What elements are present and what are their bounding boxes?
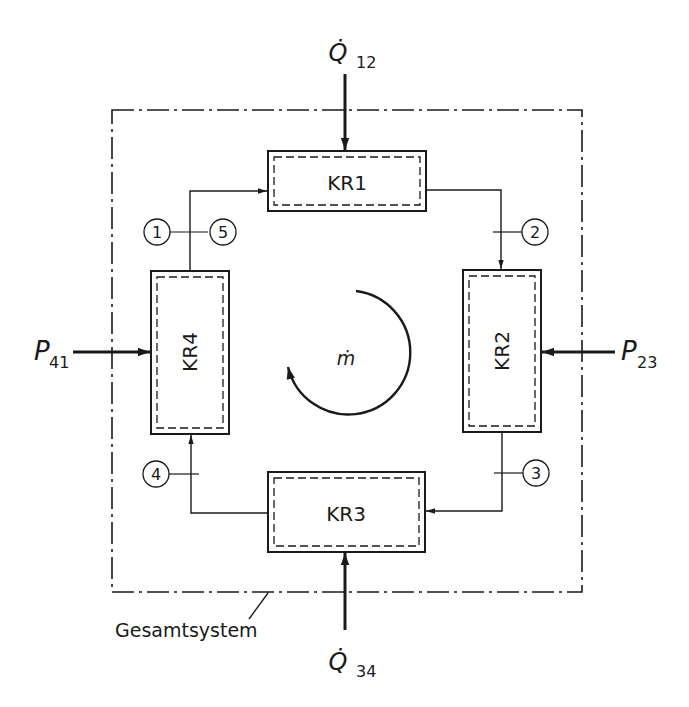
state-point-5: 5 [210, 219, 236, 245]
q12-label: Q̇ 12 [329, 39, 377, 72]
kr3-label: KR3 [326, 502, 366, 526]
p41-label: P 41 [34, 336, 69, 372]
flow-kr1-to-kr2 [426, 190, 501, 269]
svg-text:P: P [34, 336, 50, 366]
kr1-label: KR1 [327, 171, 367, 195]
state-point-1: 1 [144, 219, 208, 245]
svg-text:2: 2 [530, 223, 540, 242]
q34-label: Q̇ 34 [329, 648, 377, 681]
cycle-diagram: 1 5 2 3 4 KR1 KR2 KR3 KR4 ṁ Q̇ 12 Q̇ 34 … [0, 0, 689, 707]
kr4-label: KR4 [178, 332, 202, 372]
svg-text:5: 5 [218, 223, 228, 242]
flow-kr3-to-kr4 [191, 435, 268, 513]
flow-kr2-to-kr3 [426, 432, 502, 511]
svg-text:P: P [621, 336, 637, 366]
svg-text:23: 23 [637, 353, 657, 372]
svg-text:41: 41 [49, 353, 69, 372]
kr2-label: KR2 [490, 331, 514, 371]
mass-flow-label: ṁ [337, 347, 356, 369]
system-boundary-label: Gesamtsystem [115, 619, 258, 641]
boundary-leader-line [249, 593, 268, 619]
svg-text:Q̇: Q̇ [329, 648, 348, 676]
svg-text:34: 34 [356, 662, 376, 681]
p23-label: P 23 [621, 336, 657, 372]
svg-text:3: 3 [531, 464, 541, 483]
svg-text:1: 1 [152, 223, 162, 242]
svg-text:Q̇: Q̇ [329, 39, 348, 67]
svg-text:4: 4 [151, 465, 161, 484]
svg-text:12: 12 [356, 53, 376, 72]
